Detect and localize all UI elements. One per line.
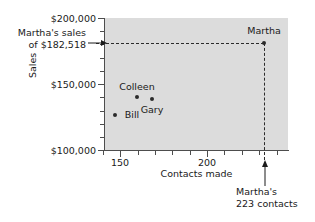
x-tick-label-200: 200 (198, 157, 216, 168)
annotation-martha-sales: Martha's sales of $182,518 (0, 27, 86, 51)
data-point-label-bill: Bill (125, 109, 139, 120)
data-point-martha (262, 41, 266, 45)
annotation-arrow-up-icon (258, 160, 272, 186)
data-point-label-martha: Martha (247, 25, 281, 36)
annotation-martha-contacts-line1: Martha's (236, 186, 298, 198)
scatter-plot-figure: $200,000 $150,000 $100,000 150 200 Sales… (0, 0, 315, 222)
data-point-gary (150, 97, 154, 101)
x-tick-minor-160 (138, 151, 139, 155)
y-axis-title: Sales (27, 53, 38, 78)
y-tick-150000 (98, 84, 104, 85)
x-tick-minor-230 (259, 151, 260, 155)
y-tick-minor-190000 (100, 31, 104, 32)
y-tick-minor-160000 (100, 71, 104, 72)
vertical-dashed-line (264, 43, 265, 160)
annotation-martha-contacts: Martha's 223 contacts (236, 186, 298, 210)
x-tick-minor-210 (224, 151, 225, 155)
data-point-colleen (135, 95, 139, 99)
annotation-martha-contacts-line2: 223 contacts (236, 198, 298, 210)
y-tick-minor-120000 (100, 124, 104, 125)
x-tick-label-150: 150 (111, 157, 129, 168)
x-tick-minor-190 (190, 151, 191, 155)
annotation-arrow-right-icon (88, 36, 108, 50)
x-axis-line (104, 150, 289, 151)
horizontal-dashed-line (96, 43, 264, 44)
x-tick-minor-180 (172, 151, 173, 155)
y-tick-minor-140000 (100, 97, 104, 98)
annotation-martha-sales-line1: Martha's sales (0, 27, 86, 39)
x-tick-minor-220 (242, 151, 243, 155)
data-point-bill (113, 113, 117, 117)
data-point-label-gary: Gary (141, 104, 164, 115)
x-tick-minor-240 (277, 151, 278, 155)
y-tick-minor-130000 (100, 111, 104, 112)
y-tick-minor-170000 (100, 58, 104, 59)
y-tick-label-100000: $100,000 (51, 145, 96, 156)
y-tick-200000 (98, 18, 104, 19)
x-tick-minor-140 (103, 151, 104, 155)
x-tick-minor-170 (155, 151, 156, 155)
annotation-martha-sales-line2: of $182,518 (0, 39, 86, 51)
y-tick-label-200000: $200,000 (51, 13, 96, 24)
data-point-label-colleen: Colleen (119, 81, 154, 92)
y-tick-label-150000: $150,000 (51, 79, 96, 90)
y-tick-minor-110000 (100, 137, 104, 138)
